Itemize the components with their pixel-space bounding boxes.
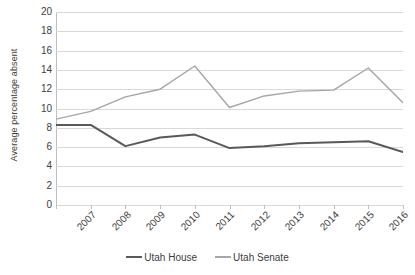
y-tick-label-16: 16 xyxy=(26,46,52,56)
x-tick-label-2011: 2011 xyxy=(213,209,236,232)
x-tick-mark-2017 xyxy=(403,205,404,209)
y-tick-label-10: 10 xyxy=(26,104,52,114)
legend-label: Utah House xyxy=(144,252,197,263)
plot-series-svg xyxy=(56,12,403,205)
series-line-utah-house xyxy=(56,125,403,152)
legend-swatch-icon xyxy=(215,256,231,258)
x-tick-label-2014: 2014 xyxy=(317,209,341,233)
x-tick-mark-2013 xyxy=(264,205,265,209)
x-axis-tick-labels: 2007200820092010201120122013201420152016… xyxy=(56,205,403,250)
x-tick-label-2009: 2009 xyxy=(144,209,168,233)
line-chart: Average percentage absent 02468101214161… xyxy=(0,0,415,275)
x-tick-mark-2014 xyxy=(299,205,300,209)
x-tick-label-2012: 2012 xyxy=(248,209,272,233)
x-tick-mark-2010 xyxy=(160,205,161,209)
chart-legend: Utah HouseUtah Senate xyxy=(0,249,415,265)
series-line-utah-senate xyxy=(56,66,403,119)
x-tick-mark-2015 xyxy=(334,205,335,209)
x-tick-label-2007: 2007 xyxy=(75,209,99,233)
x-tick-label-2013: 2013 xyxy=(283,209,307,233)
y-axis-tick-labels: 02468101214161820 xyxy=(26,12,52,205)
x-tick-label-2016: 2016 xyxy=(387,209,411,233)
y-tick-label-2: 2 xyxy=(26,181,52,191)
y-tick-label-18: 18 xyxy=(26,26,52,36)
y-axis-title: Average percentage absent xyxy=(9,5,23,205)
y-tick-label-0: 0 xyxy=(26,200,52,210)
legend-label: Utah Senate xyxy=(233,252,289,263)
x-tick-label-2015: 2015 xyxy=(352,209,376,233)
plot-area xyxy=(56,12,403,205)
x-tick-label-2010: 2010 xyxy=(179,209,203,233)
y-tick-label-14: 14 xyxy=(26,65,52,75)
y-tick-label-20: 20 xyxy=(26,7,52,17)
x-tick-mark-2009 xyxy=(125,205,126,209)
x-tick-label-2008: 2008 xyxy=(109,209,133,233)
x-tick-mark-2007 xyxy=(56,205,57,209)
y-tick-label-4: 4 xyxy=(26,161,52,171)
legend-swatch-icon xyxy=(126,256,142,258)
x-tick-mark-2008 xyxy=(91,205,92,209)
y-tick-label-12: 12 xyxy=(26,84,52,94)
x-tick-mark-2016 xyxy=(368,205,369,209)
legend-item-utah-senate[interactable]: Utah Senate xyxy=(215,252,289,263)
y-tick-label-6: 6 xyxy=(26,142,52,152)
legend-item-utah-house[interactable]: Utah House xyxy=(126,252,197,263)
y-tick-label-8: 8 xyxy=(26,123,52,133)
x-tick-mark-2011 xyxy=(195,205,196,209)
x-tick-mark-2012 xyxy=(230,205,231,209)
